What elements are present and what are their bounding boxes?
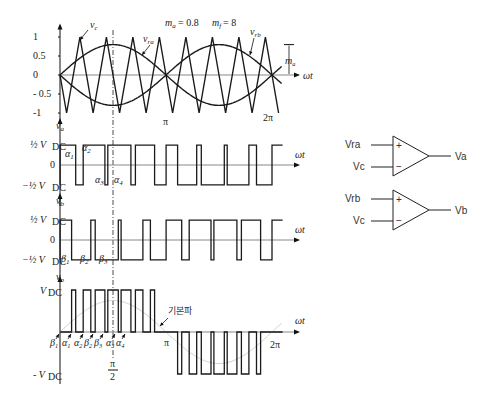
y-tick-label: -1: [33, 107, 41, 118]
comparator-a: +−VraVcVa: [345, 136, 467, 176]
pi-over-2-num: π: [110, 358, 115, 369]
pi-tick-label: π: [163, 116, 168, 127]
omega-t-label-top: ωt: [303, 70, 313, 81]
input-label-plus: Vrb: [345, 193, 361, 204]
pi-label-vo: π: [164, 337, 169, 348]
label-beta2: β2: [79, 253, 89, 266]
label-vra: vra: [143, 33, 154, 46]
label-angle-α3: α3: [106, 337, 114, 349]
label-vdc-pos: V: [40, 285, 48, 296]
label-vb-axis: vb: [56, 195, 64, 208]
y-tick-label: 1: [33, 31, 38, 42]
omega-t-label-vb: ωt: [295, 224, 305, 235]
comparator-b: +−VrbVcVb: [345, 190, 468, 230]
label-zero-vb: 0: [50, 234, 55, 245]
text: DC: [52, 182, 66, 193]
text: DC: [48, 371, 62, 382]
x-axis-arrow-va: [294, 163, 300, 168]
label-beta3: β3: [98, 253, 108, 266]
label-angle-β2: β2: [83, 337, 93, 349]
y-tick-label: 0.5: [33, 50, 46, 61]
y-tick-label: 0: [33, 69, 38, 80]
text: DC: [48, 287, 62, 298]
label-ma-value: = 0.8: [178, 17, 199, 28]
two-pi-label-vo: 2π: [270, 339, 280, 350]
label-angle-α1: α1: [62, 337, 70, 349]
label-angle-α2: α2: [74, 337, 83, 349]
label-half-vdc-pos-vb: ½ V: [30, 214, 48, 225]
label-vo-axis: vo: [56, 271, 64, 284]
input-label-plus: Vra: [345, 139, 361, 150]
label-alpha3: α3: [95, 174, 104, 187]
label-alpha1: α1: [65, 148, 74, 161]
label-alpha4: α4: [114, 174, 123, 187]
label-vdc-neg: - V: [33, 369, 47, 380]
spwm-waveforms: ωt10.50- 0.5-1vcvravrbma= 0.8mf= 8maπ2πω…: [0, 0, 482, 402]
label-half-vdc-neg-vb: −½ V: [22, 254, 47, 265]
omega-t-label-vo: ωt: [295, 315, 305, 326]
pi-over-2-den: 2: [110, 371, 115, 382]
two-pi-tick-label: 2π: [263, 112, 273, 123]
minus-sign: −: [396, 161, 402, 172]
label-half-vdc-pos-va: ½ V: [30, 139, 48, 150]
label-angle-α4: α4: [116, 337, 124, 349]
label-ma-eq: ma: [165, 17, 176, 30]
label-angle-β1: β1: [49, 337, 58, 349]
plus-sign: +: [396, 140, 402, 151]
x-axis-arrow-top: [294, 73, 300, 78]
label-mf-value: = 8: [223, 17, 236, 28]
plus-sign: +: [396, 194, 402, 205]
label-fundamental: 기본파: [168, 306, 193, 316]
x-axis-arrow-vo: [294, 330, 300, 335]
label-vrb: vrb: [250, 26, 261, 39]
label-va-axis: va: [56, 120, 64, 133]
spwm-diagram: ωt10.50- 0.5-1vcvravrbma= 0.8mf= 8maπ2πω…: [0, 0, 482, 402]
label-half-vdc-neg-va: −½ V: [22, 180, 47, 191]
label-mf-eq: mf: [212, 17, 222, 30]
y-tick-label: - 0.5: [33, 88, 51, 99]
input-label-minus: Vc: [353, 161, 365, 172]
x-axis-arrow-vb: [294, 238, 300, 243]
text: DC: [52, 216, 66, 227]
label-ma-bracket: ma: [285, 55, 295, 67]
output-label: Va: [455, 151, 467, 162]
omega-t-label-va: ωt: [295, 149, 305, 160]
pwm-waveform-vo: [60, 290, 283, 374]
label-zero-va: 0: [50, 159, 55, 170]
output-label: Vb: [455, 205, 468, 216]
y-axis-arrow-top: [58, 24, 63, 30]
vrb-pointer-head: [249, 51, 252, 55]
label-angle-β3: β3: [93, 337, 102, 349]
minus-sign: −: [396, 215, 402, 226]
input-label-minus: Vc: [353, 215, 365, 226]
label-vc: vc: [90, 19, 98, 32]
